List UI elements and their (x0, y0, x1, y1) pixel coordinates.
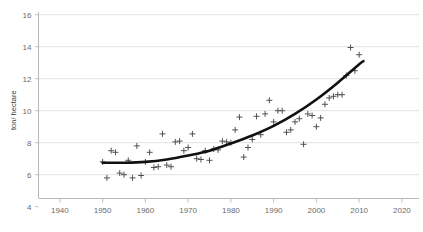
y-tick-label-12: 12 (23, 75, 32, 84)
data-point (147, 149, 153, 155)
data-point (207, 157, 213, 163)
data-point (296, 116, 302, 122)
y-axis (35, 12, 39, 207)
data-point (117, 170, 123, 176)
data-point (108, 148, 114, 154)
data-point (232, 127, 238, 133)
data-point (292, 119, 298, 125)
x-tick-label-1940: 1940 (51, 206, 69, 215)
y-tick-labels: 46810121416 (23, 11, 32, 212)
data-point (164, 162, 170, 168)
data-point (318, 115, 324, 121)
gridlines (39, 15, 420, 175)
x-tick-label-1950: 1950 (94, 206, 112, 215)
data-point (245, 145, 251, 151)
data-point (138, 173, 144, 179)
data-point (236, 114, 242, 120)
data-point (185, 145, 191, 151)
data-point (172, 139, 178, 145)
chart-container: 46810121416 1940195019601970198019902000… (0, 0, 423, 232)
data-point (155, 164, 161, 170)
y-axis-title: ton/ hectare (9, 90, 18, 130)
x-tick-label-2020: 2020 (393, 206, 411, 215)
data-point (266, 97, 272, 103)
data-point (254, 113, 260, 119)
scatter-plot: 46810121416 1940195019601970198019902000… (0, 0, 423, 232)
x-tick-labels: 194019501960197019801990200020102020 (51, 206, 411, 215)
y-tick-label-14: 14 (23, 43, 32, 52)
data-point (339, 92, 345, 98)
data-point (262, 111, 268, 117)
data-point (181, 148, 187, 154)
y-tick-label-10: 10 (23, 107, 32, 116)
data-point (159, 131, 165, 137)
data-point (112, 149, 118, 155)
x-tick-label-1990: 1990 (265, 206, 283, 215)
data-point (322, 101, 328, 107)
x-tick-label-1970: 1970 (179, 206, 197, 215)
y-tick-label-8: 8 (27, 139, 32, 148)
data-point (134, 143, 140, 149)
data-point (104, 175, 110, 181)
data-point (241, 154, 247, 160)
data-point (313, 124, 319, 130)
trend-line (103, 61, 364, 163)
data-point (194, 156, 200, 162)
data-point (198, 157, 204, 163)
x-tick-label-2000: 2000 (307, 206, 325, 215)
y-tick-label-6: 6 (27, 171, 32, 180)
data-point (301, 141, 307, 147)
data-point (151, 165, 157, 171)
data-point-markers (100, 45, 363, 181)
x-tick-label-1960: 1960 (136, 206, 154, 215)
data-point (121, 172, 127, 178)
x-tick-label-2010: 2010 (350, 206, 368, 215)
data-point (326, 95, 332, 101)
data-point (348, 45, 354, 51)
data-point (219, 138, 225, 144)
data-point (309, 113, 315, 119)
data-point (305, 111, 311, 117)
data-point (168, 164, 174, 170)
data-point (189, 131, 195, 137)
data-point (177, 138, 183, 144)
y-tick-label-16: 16 (23, 11, 32, 20)
data-point (330, 93, 336, 99)
x-tick-label-1980: 1980 (222, 206, 240, 215)
data-point (279, 108, 285, 114)
x-axis (39, 199, 420, 203)
data-point (130, 175, 136, 181)
y-tick-label-4: 4 (27, 203, 32, 212)
data-point (356, 52, 362, 58)
